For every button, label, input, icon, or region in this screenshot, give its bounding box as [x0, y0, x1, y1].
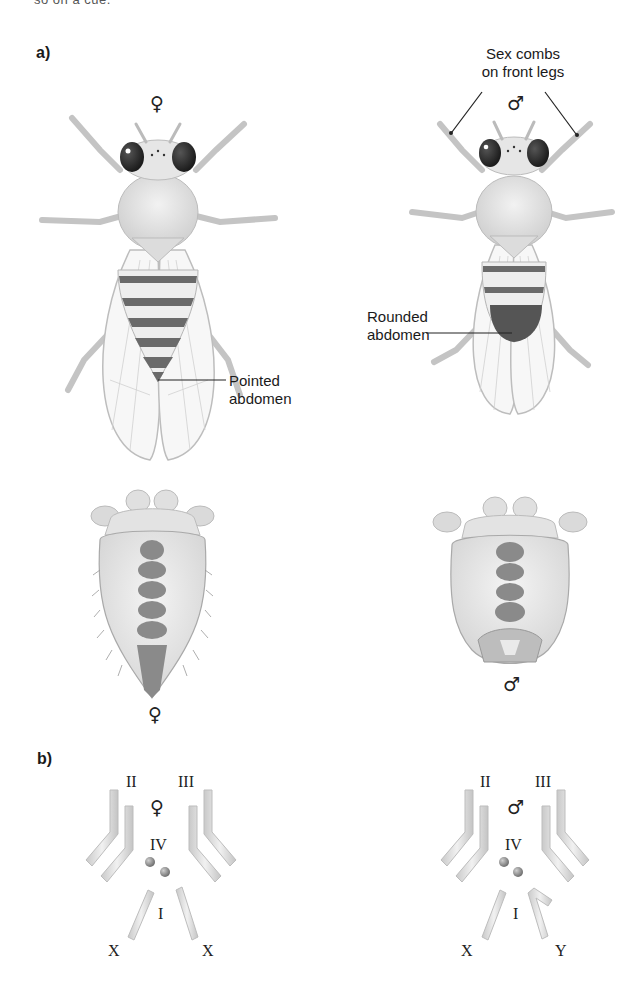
- callout-pointed-abdomen: Pointed abdomen: [229, 372, 292, 408]
- female-chromosome-iv-a: [145, 857, 155, 867]
- male-label-left-sex: X: [461, 942, 473, 960]
- female-ventral-abdomen: [91, 490, 214, 698]
- figure-drawing: [0, 0, 638, 987]
- female-label-right-sex: X: [202, 942, 214, 960]
- female-label-ii: II: [126, 773, 137, 791]
- callout-sex-combs-line1: Sex combs: [458, 45, 588, 63]
- female-fly-dorsal: [42, 118, 275, 460]
- callout-rounded-line2: abdomen: [367, 326, 430, 344]
- callout-pointed-line1: Pointed: [229, 372, 292, 390]
- female-symbol-ventral: ♀: [148, 703, 162, 725]
- callout-pointed-line2: abdomen: [229, 390, 292, 408]
- callout-sex-combs-line2: on front legs: [458, 63, 588, 81]
- male-ventral-abdomen: [433, 497, 587, 664]
- male-symbol-dorsal: ♂: [507, 92, 524, 114]
- female-label-iv: IV: [150, 836, 167, 854]
- female-label-iii: III: [178, 773, 194, 791]
- female-symbol-dorsal: ♀: [150, 92, 164, 114]
- male-fly-dorsal: [412, 122, 612, 414]
- callout-sex-combs: Sex combs on front legs: [458, 45, 588, 81]
- female-label-left-sex: X: [108, 942, 120, 960]
- male-symbol-karyotype: ♂: [507, 796, 524, 818]
- male-chromosome-iv-b: [513, 867, 523, 877]
- callout-rounded-abdomen: Rounded abdomen: [367, 308, 430, 344]
- male-chromosome-iv-a: [499, 857, 509, 867]
- male-symbol-ventral: ♂: [503, 673, 520, 695]
- female-chromosome-iv-b: [160, 867, 170, 877]
- male-label-iv: IV: [505, 836, 522, 854]
- callout-rounded-line1: Rounded: [367, 308, 430, 326]
- male-label-ii: II: [480, 773, 491, 791]
- male-label-iii: III: [535, 773, 551, 791]
- female-symbol-karyotype: ♀: [150, 796, 164, 818]
- male-label-i: I: [513, 905, 518, 923]
- male-label-right-sex: Y: [555, 942, 567, 960]
- female-label-i: I: [158, 905, 163, 923]
